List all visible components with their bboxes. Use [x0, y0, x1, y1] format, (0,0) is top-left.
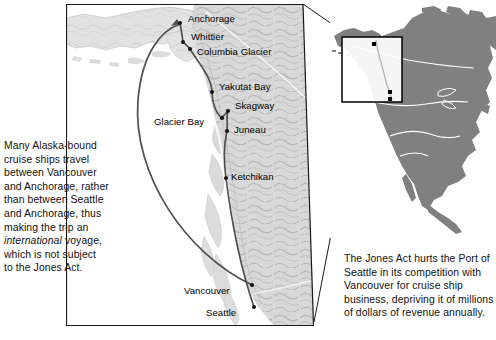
left-caption-line-1: Many Alaska-bound	[4, 139, 122, 153]
left-caption-line-3: between Vancouver	[4, 166, 122, 180]
city-label-vancouver: Vancouver	[184, 286, 230, 296]
right-caption-line-4: business, depriving it of millions	[344, 293, 496, 307]
inset-marker-anchorage	[372, 42, 376, 46]
inset-svg	[330, 6, 496, 238]
inset-marker-vancouver	[388, 90, 392, 94]
city-label-glacier-bay: Glacier Bay	[154, 117, 204, 127]
left-caption-line-6: and Anchorage, thus	[4, 207, 122, 221]
city-label-columbia-glacier: Columbia Glacier	[197, 47, 271, 57]
left-caption-line-9: which is not subject	[4, 248, 122, 262]
left-caption-line-2: cruise ships travel	[4, 153, 122, 167]
city-dot-columbia-glacier	[188, 47, 192, 51]
city-dot-glacier-bay	[220, 116, 224, 120]
inset-marker-seattle	[388, 97, 392, 101]
left-caption-line-5: than between Seattle	[4, 193, 122, 207]
city-dot-juneau	[225, 129, 229, 133]
left-caption-line-7: making the trip an	[4, 221, 122, 235]
city-label-ketchikan: Ketchikan	[231, 172, 274, 182]
right-caption: The Jones Act hurts the Port of Seattle …	[344, 252, 496, 320]
city-dot-skagway	[226, 109, 230, 113]
city-dot-whittier	[181, 40, 185, 44]
city-dot-ketchikan	[224, 176, 228, 180]
left-caption-line-10: to the Jones Act.	[4, 261, 122, 275]
locator-box	[342, 37, 402, 102]
city-dot-seattle	[252, 305, 256, 309]
right-caption-line-3: Vancouver for cruise ship	[344, 279, 496, 293]
left-caption-line-8-rest: voyage,	[62, 235, 102, 246]
city-label-yakutat-bay: Yakutat Bay	[219, 82, 271, 92]
left-caption-emphasis: international	[4, 235, 62, 246]
city-label-juneau: Juneau	[234, 125, 266, 135]
right-caption-line-1: The Jones Act hurts the Port of	[344, 252, 496, 266]
left-caption-line-8: international voyage,	[4, 234, 122, 248]
north-america-locator-map	[330, 6, 496, 238]
city-dot-yakutat-bay	[210, 90, 214, 94]
right-caption-line-5: of dollars of revenue annually.	[344, 306, 496, 320]
city-label-skagway: Skagway	[235, 101, 274, 111]
city-label-anchorage: Anchorage	[188, 14, 235, 24]
right-caption-line-2: Seattle in its competition with	[344, 266, 496, 280]
figure-root: Anchorage Whittier Columbia Glacier Yaku…	[0, 0, 496, 340]
left-caption: Many Alaska-bound cruise ships travel be…	[4, 139, 122, 275]
city-label-seattle: Seattle	[206, 308, 236, 318]
city-dot-vancouver	[250, 283, 254, 287]
left-caption-line-4: and Anchorage, rather	[4, 180, 122, 194]
city-label-whittier: Whittier	[191, 32, 224, 42]
city-dot-anchorage	[178, 21, 182, 25]
